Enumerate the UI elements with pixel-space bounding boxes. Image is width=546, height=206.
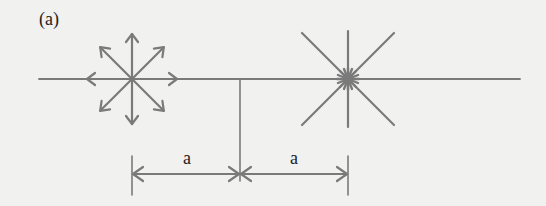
arrow-right bbox=[132, 73, 177, 85]
dimension-arrow-right bbox=[241, 167, 347, 181]
diagram-svg bbox=[0, 0, 546, 206]
dimension-label-left: a bbox=[183, 149, 191, 167]
dimension-arrow-left bbox=[133, 167, 239, 181]
dimension-label-right: a bbox=[290, 149, 298, 167]
converging-rays-icon bbox=[300, 31, 396, 127]
panel-label: (a) bbox=[39, 10, 59, 28]
diverging-arrows-icon bbox=[87, 34, 177, 124]
diagram-canvas: (a) a a bbox=[0, 0, 546, 206]
